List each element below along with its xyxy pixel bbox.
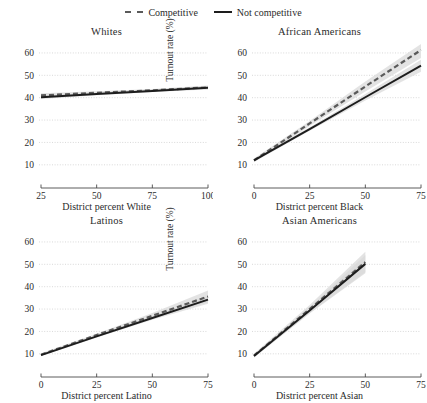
x-axis-label: District percent Black	[213, 201, 426, 212]
svg-text:75: 75	[148, 191, 158, 201]
svg-text:40: 40	[25, 93, 35, 103]
svg-text:10: 10	[238, 349, 248, 359]
plot-area: 1020304050600255075	[213, 24, 426, 213]
plot-area: 1020304050600255075	[213, 213, 426, 402]
svg-text:50: 50	[25, 71, 35, 81]
svg-text:10: 10	[25, 160, 35, 170]
panel-african-americans: African Americans Turnout rate (%) 10203…	[213, 24, 426, 213]
legend-item-competitive: Competitive	[125, 7, 197, 18]
svg-text:50: 50	[25, 260, 35, 270]
svg-text:20: 20	[238, 327, 248, 337]
svg-text:75: 75	[416, 191, 426, 201]
legend-item-not-competitive: Not competitive	[214, 7, 302, 18]
svg-text:20: 20	[25, 138, 35, 148]
svg-text:30: 30	[25, 115, 35, 125]
svg-text:100: 100	[201, 191, 213, 201]
legend-label-not-competitive: Not competitive	[237, 7, 302, 18]
svg-text:25: 25	[36, 191, 46, 201]
panel-whites: Whites Turnout rate (%) 1020304050602550…	[0, 24, 213, 213]
svg-text:50: 50	[92, 191, 102, 201]
x-axis-label: District percent Asian	[213, 390, 426, 401]
svg-text:75: 75	[203, 380, 213, 390]
plot-area: 1020304050600255075	[0, 213, 213, 402]
svg-text:10: 10	[238, 160, 248, 170]
x-axis-label: District percent Latino	[0, 390, 213, 401]
svg-text:40: 40	[25, 282, 35, 292]
svg-text:25: 25	[92, 380, 102, 390]
svg-text:30: 30	[238, 304, 248, 314]
svg-text:10: 10	[25, 349, 35, 359]
legend-swatch-dashed-icon	[125, 11, 143, 13]
legend-swatch-solid-icon	[214, 11, 232, 13]
svg-text:30: 30	[238, 115, 248, 125]
svg-text:0: 0	[39, 380, 44, 390]
svg-text:25: 25	[305, 380, 315, 390]
x-axis-label: District percent White	[0, 201, 213, 212]
svg-text:50: 50	[148, 380, 158, 390]
svg-text:20: 20	[25, 327, 35, 337]
svg-text:60: 60	[25, 48, 35, 58]
svg-text:60: 60	[238, 48, 248, 58]
svg-text:25: 25	[305, 191, 315, 201]
svg-text:0: 0	[252, 380, 257, 390]
svg-text:60: 60	[25, 237, 35, 247]
svg-text:30: 30	[25, 304, 35, 314]
svg-text:0: 0	[252, 191, 257, 201]
svg-text:20: 20	[238, 138, 248, 148]
y-axis-label: Turnout rate (%)	[165, 0, 177, 110]
svg-text:50: 50	[361, 380, 371, 390]
svg-text:40: 40	[238, 282, 248, 292]
svg-text:50: 50	[238, 260, 248, 270]
panel-latinos: Latinos Turnout rate (%) 102030405060025…	[0, 213, 213, 402]
svg-text:50: 50	[238, 71, 248, 81]
figure-turnout-by-district-composition: Competitive Not competitive Whites Turno…	[0, 0, 427, 403]
svg-text:40: 40	[238, 93, 248, 103]
plot-area: 102030405060255075100	[0, 24, 213, 213]
legend: Competitive Not competitive	[0, 0, 427, 24]
y-axis-label: Turnout rate (%)	[165, 179, 177, 299]
svg-text:50: 50	[361, 191, 371, 201]
svg-text:75: 75	[416, 380, 426, 390]
panel-asian-americans: Asian Americans Turnout rate (%) 1020304…	[213, 213, 426, 402]
svg-text:60: 60	[238, 237, 248, 247]
